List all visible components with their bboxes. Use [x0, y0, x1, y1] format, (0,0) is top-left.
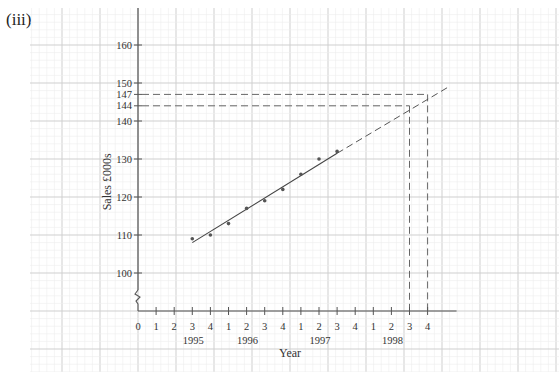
x-tick-label: 1 — [298, 321, 303, 332]
y-tick-label: 110 — [117, 230, 132, 241]
axes — [134, 8, 457, 315]
data-point — [245, 207, 249, 211]
data-point — [209, 233, 213, 237]
x-tick-label: 3 — [334, 321, 339, 332]
sales-chart: 1001101201301401441471501600123412341234… — [0, 0, 559, 372]
y-tick-label: 100 — [116, 268, 132, 279]
x-year-label: 1996 — [237, 335, 258, 346]
x-tick-label: 4 — [425, 321, 431, 332]
x-tick-label: 3 — [190, 321, 195, 332]
y-axis-title: Sales £000s — [100, 153, 114, 210]
x-tick-label: 4 — [353, 321, 359, 332]
x-tick-label: 4 — [208, 321, 214, 332]
y-tick-label: 150 — [116, 78, 132, 89]
x-axis-title: Year — [279, 346, 301, 360]
y-tick-label: 144 — [116, 100, 133, 111]
y-tick-label: 160 — [116, 40, 132, 51]
prediction-dashed-lines — [142, 94, 428, 311]
y-tick-label: 130 — [116, 154, 132, 165]
x-tick-label: 1 — [153, 321, 158, 332]
x-tick-label: 3 — [262, 321, 267, 332]
x-tick-label: 2 — [172, 321, 177, 332]
data-points — [191, 150, 339, 241]
data-point — [263, 199, 267, 203]
trend-line-extension — [337, 87, 449, 154]
x-tick-label: 4 — [280, 321, 286, 332]
x-year-label: 1997 — [310, 335, 331, 346]
x-tick-label: 1 — [226, 321, 231, 332]
data-point — [227, 222, 231, 226]
x-tick-label: 0 — [135, 321, 140, 332]
data-point — [299, 172, 303, 176]
x-tick-label: 2 — [389, 321, 394, 332]
data-point — [335, 150, 339, 154]
x-year-label: 1998 — [382, 335, 403, 346]
x-year-label: 1995 — [183, 335, 204, 346]
data-point — [317, 157, 321, 161]
x-tick-label: 1 — [371, 321, 376, 332]
x-tick-label: 3 — [407, 321, 412, 332]
y-tick-label: 120 — [116, 192, 132, 203]
y-tick-label: 140 — [116, 116, 132, 127]
data-point — [281, 188, 285, 192]
x-tick-label: 2 — [316, 321, 321, 332]
y-tick-label: 147 — [116, 89, 132, 100]
x-tick-label: 2 — [244, 321, 249, 332]
data-point — [191, 237, 195, 241]
